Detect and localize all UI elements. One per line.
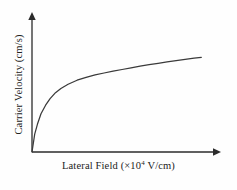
x-axis-label-prefix: Lateral Field (×10: [62, 160, 141, 171]
x-axis-label: Lateral Field (×104 V/cm): [0, 160, 237, 171]
figure-container: Lateral Field (×104 V/cm) Carrier Veloci…: [0, 0, 237, 190]
velocity-field-curve: [32, 57, 201, 152]
x-axis-arrowhead-icon: [213, 148, 221, 155]
y-axis-label: Carrier Velocity (cm/s): [13, 15, 24, 155]
y-axis-arrowhead-icon: [28, 12, 35, 20]
x-axis-label-suffix: V/cm): [145, 160, 175, 171]
